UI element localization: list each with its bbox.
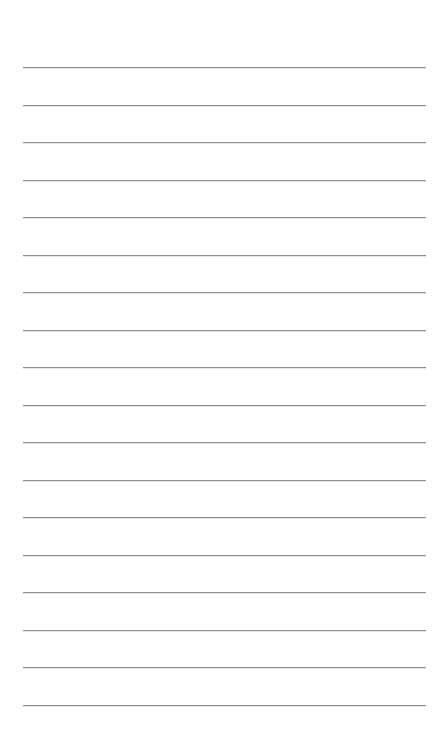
ruled-paper-page xyxy=(0,0,445,740)
ruled-line xyxy=(23,255,426,256)
ruled-line xyxy=(23,555,426,556)
ruled-line xyxy=(23,480,426,481)
ruled-line xyxy=(23,105,426,106)
ruled-line xyxy=(23,405,426,406)
ruled-line xyxy=(23,592,426,593)
ruled-line xyxy=(23,705,426,706)
ruled-line xyxy=(23,442,426,443)
ruled-line xyxy=(23,292,426,293)
ruled-line xyxy=(23,142,426,143)
ruled-line xyxy=(23,217,426,218)
ruled-line xyxy=(23,630,426,631)
ruled-line xyxy=(23,667,426,668)
ruled-line xyxy=(23,367,426,368)
ruled-line xyxy=(23,180,426,181)
ruled-line xyxy=(23,517,426,518)
ruled-line xyxy=(23,67,426,68)
ruled-line xyxy=(23,330,426,331)
